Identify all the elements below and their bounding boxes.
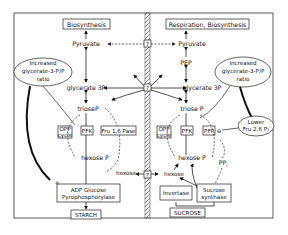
pep-label: PEP xyxy=(180,59,192,66)
svg-text:glycerate-3-P/P: glycerate-3-P/P xyxy=(22,68,65,75)
svg-text:ratio: ratio xyxy=(237,76,250,82)
right-pyruvate: Pyruvate xyxy=(178,40,206,48)
starch-label: STARCH xyxy=(75,212,97,218)
hexose-transport: hexose xyxy=(116,170,136,176)
left-compartment: Biosynthesis Pyruvate Increased glycerat… xyxy=(14,19,145,219)
svg-text:Fru 2,6 P₂: Fru 2,6 P₂ xyxy=(243,126,270,132)
right-hexose-p: hexose P xyxy=(178,154,206,161)
metabolic-pathway-diagram: Biosynthesis Pyruvate Increased glycerat… xyxy=(0,0,288,235)
svg-text:glycerate-3-P/P: glycerate-3-P/P xyxy=(222,68,265,75)
svg-text:?: ? xyxy=(146,85,149,91)
left-pyruvate: Pyruvate xyxy=(72,40,100,48)
right-triose: triose P xyxy=(180,105,203,112)
sucrose-label: SUCROSE xyxy=(174,210,201,216)
svg-text:cycle: cycle xyxy=(157,132,172,139)
svg-text:synthase: synthase xyxy=(201,194,227,201)
svg-text:ADP Glucose: ADP Glucose xyxy=(71,187,107,193)
svg-text:?: ? xyxy=(146,172,149,178)
invertase-label: Invertase xyxy=(163,190,190,196)
left-hexose-p: hexose P xyxy=(81,154,109,161)
svg-text:Sucrose: Sucrose xyxy=(203,187,226,193)
svg-text:?: ? xyxy=(146,41,149,47)
inhibit-icon: ⊖ xyxy=(217,128,222,134)
left-triose: trioseP xyxy=(77,105,99,112)
svg-text:cycle: cycle xyxy=(58,132,73,139)
right-pfk: PFK xyxy=(182,128,193,134)
ppi-label: PPi xyxy=(219,159,228,168)
svg-text:ratio: ratio xyxy=(37,76,50,82)
svg-text:Lower: Lower xyxy=(248,119,265,125)
respiration-label: Respiration, Biosynthesis xyxy=(169,21,247,29)
svg-text:Increased: Increased xyxy=(229,60,257,66)
right-glycerate: glycerate 3P xyxy=(183,84,222,92)
fru-16-pase: Fru 1,6 Pase xyxy=(101,128,136,134)
left-pfk: PFK xyxy=(82,128,93,134)
biosynthesis-label: Biosynthesis xyxy=(67,21,106,29)
activation-plus: + xyxy=(54,179,59,186)
right-hexose: hexose xyxy=(164,171,184,177)
left-glycerate: glycerate 3P xyxy=(67,84,106,92)
svg-text:Increased: Increased xyxy=(29,60,57,66)
right-compartment: Respiration, Biosynthesis Pyruvate PEP g… xyxy=(151,19,274,217)
svg-text:Pyrophosphorylase: Pyrophosphorylase xyxy=(62,194,116,201)
